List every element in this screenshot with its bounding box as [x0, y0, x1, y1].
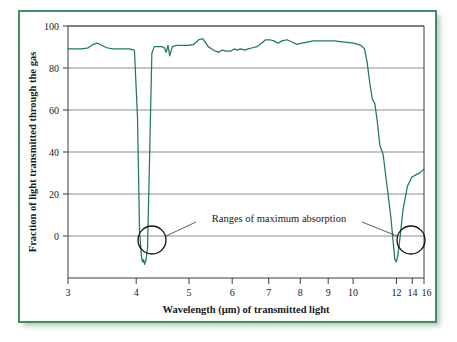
y-tick-label: 40 [49, 147, 59, 158]
x-tick-label: 3 [66, 287, 71, 298]
x-tick-labels: 3 4 5 6 7 8 9 10 12 14 16 [66, 287, 432, 298]
x-tick-label: 14 [408, 287, 418, 298]
x-tick-label: 7 [266, 287, 271, 298]
y-tick-labels: 100 80 60 40 20 0 [44, 21, 59, 242]
y-axis-title: Fraction of light transmitted through th… [27, 52, 38, 252]
left-absorption-band-circle [138, 226, 166, 254]
right-absorption-band-circle [397, 226, 425, 254]
x-tick-label: 6 [230, 287, 235, 298]
x-tick-label: 4 [134, 287, 139, 298]
x-tick-label: 5 [187, 287, 192, 298]
y-tick-label: 20 [49, 189, 59, 200]
y-tick-label: 80 [49, 63, 59, 74]
x-tick-label: 16 [422, 287, 432, 298]
chart-svg: 100 80 60 40 20 0 3 4 5 6 7 [0, 0, 457, 342]
spectrum-chart: 100 80 60 40 20 0 3 4 5 6 7 [0, 0, 457, 342]
x-tick-label: 8 [298, 287, 303, 298]
transmittance-curve [68, 39, 424, 265]
y-tick-label: 100 [44, 21, 59, 32]
absorption-annotation-label: Ranges of maximum absorption [212, 213, 347, 224]
x-axis-title: Wavelength (µm) of transmitted light [162, 304, 330, 316]
x-tick-label: 12 [391, 287, 401, 298]
leader-line-left [166, 222, 196, 236]
x-tick-label: 10 [348, 287, 358, 298]
y-tick-marks [63, 26, 68, 236]
y-tick-label: 60 [49, 105, 59, 116]
x-tick-label: 9 [326, 287, 331, 298]
x-tick-marks [68, 278, 424, 284]
y-tick-label: 0 [54, 231, 59, 242]
grid-lines [68, 26, 424, 236]
